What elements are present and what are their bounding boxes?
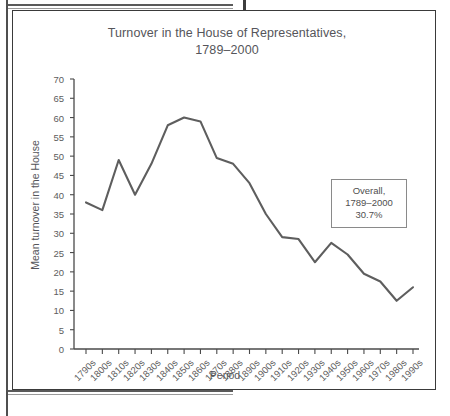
y-axis-title: Mean turnover in the House <box>29 120 41 290</box>
y-tick-label: 35 <box>38 209 64 220</box>
y-tick-label: 65 <box>38 93 64 104</box>
callout-line-1: Overall, <box>334 185 404 197</box>
page-top-rule-secondary <box>8 8 233 9</box>
x-axis-title: Period <box>13 369 437 381</box>
callout-line-2: 1789–2000 <box>334 197 404 209</box>
y-tick-label: 10 <box>38 305 64 316</box>
page-top-rule <box>8 4 233 6</box>
y-tick-label: 50 <box>38 151 64 162</box>
figure-panel: Turnover in the House of Representatives… <box>12 10 436 390</box>
y-tick-label: 5 <box>38 324 64 335</box>
y-tick-label: 20 <box>38 266 64 277</box>
y-tick-label: 70 <box>38 74 64 85</box>
y-tick-label: 15 <box>38 286 64 297</box>
x-axis-ticks <box>86 349 413 354</box>
y-tick-label: 45 <box>38 170 64 181</box>
y-tick-label: 30 <box>38 228 64 239</box>
page-left-rule <box>6 0 8 416</box>
y-tick-label: 0 <box>38 344 64 355</box>
overall-callout-box: Overall, 1789–2000 30.7% <box>331 179 407 228</box>
y-tick-label: 60 <box>38 112 64 123</box>
y-tick-label: 25 <box>38 247 64 258</box>
y-tick-label: 55 <box>38 131 64 142</box>
callout-line-3: 30.7% <box>334 209 404 221</box>
y-tick-label: 40 <box>38 189 64 200</box>
